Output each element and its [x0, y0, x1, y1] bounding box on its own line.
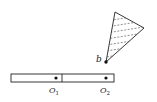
triangular-plate — [100, 12, 150, 62]
horizontal-rod — [11, 74, 114, 82]
triangle-outline — [106, 12, 144, 62]
label-o1: O1 — [49, 86, 59, 96]
label-o2: O2 — [100, 86, 110, 96]
point-o1 — [54, 76, 57, 79]
label-b: b — [96, 54, 102, 64]
diagram-canvas: b O1 O2 — [0, 0, 157, 102]
rod-outline — [11, 74, 114, 82]
point-o2 — [104, 76, 107, 79]
pivot-point-b — [104, 60, 107, 63]
